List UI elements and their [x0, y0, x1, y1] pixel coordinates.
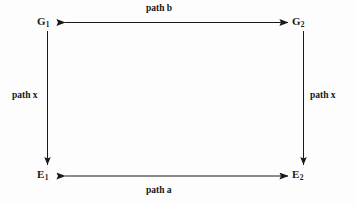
- node-label-g2: G2: [292, 16, 305, 27]
- node-label-e1: E1: [37, 169, 48, 180]
- node-g2-subscript: 2: [301, 20, 305, 29]
- node-g1-subscript: 1: [46, 20, 50, 29]
- node-e1-subscript: 1: [44, 173, 48, 182]
- node-g2-base: G: [292, 15, 301, 27]
- node-e2-subscript: 2: [299, 173, 303, 182]
- edge-label-path-x-left: path x: [12, 91, 38, 101]
- node-label-g1: G1: [37, 16, 50, 27]
- node-g1-base: G: [37, 15, 46, 27]
- edge-label-path-b: path b: [146, 4, 172, 14]
- edge-label-path-x-right: path x: [310, 91, 336, 101]
- path-diagram: G1 G2 E1 E2 path b path a path x path x: [0, 0, 356, 205]
- node-label-e2: E2: [292, 169, 303, 180]
- edge-label-path-a: path a: [146, 186, 172, 196]
